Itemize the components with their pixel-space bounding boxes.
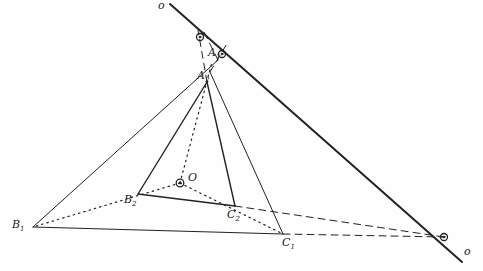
ext-B2C2 xyxy=(235,206,444,237)
label-B2: B2 xyxy=(124,194,137,208)
label-o-bottom: o xyxy=(464,246,471,257)
label-A1: A1 xyxy=(208,47,220,61)
side-B1C1 xyxy=(33,227,283,234)
label-o-top: o xyxy=(158,0,165,11)
desargues-diagram: o o A1 A2 B1 B2 C1 C2 O xyxy=(0,0,483,271)
label-A2: A2 xyxy=(197,70,209,84)
side-A1C1 xyxy=(210,72,283,234)
label-O: O xyxy=(188,172,197,183)
side-A2C2 xyxy=(207,82,235,206)
ray-O-B xyxy=(33,183,180,227)
label-B1: B1 xyxy=(12,219,25,233)
label-C1: C1 xyxy=(282,237,295,251)
side-B2C2 xyxy=(138,194,235,206)
axis-line-o xyxy=(170,4,462,262)
diagram-canvas xyxy=(0,0,483,271)
ext-B1C1 xyxy=(283,234,444,237)
label-C2: C2 xyxy=(227,209,240,223)
